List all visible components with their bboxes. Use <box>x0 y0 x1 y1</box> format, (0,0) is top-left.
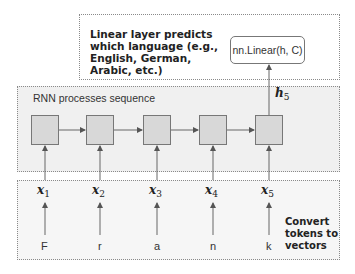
arrows-layer <box>0 0 355 274</box>
